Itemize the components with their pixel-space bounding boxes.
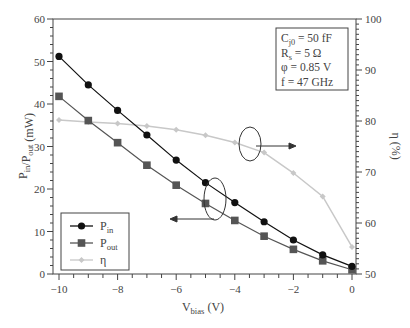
circle-marker: [231, 199, 238, 206]
eta-ellipse: [239, 127, 261, 161]
y2-tick-label: 80: [365, 115, 377, 127]
y2-tick-label: 70: [365, 166, 377, 178]
square-marker: [55, 93, 63, 101]
circle-marker: [85, 81, 92, 88]
square-marker: [78, 239, 86, 247]
diamond-marker: [56, 117, 62, 123]
parameter-line: f = 47 GHz: [281, 76, 333, 88]
parameter-box: Cj0 = 50 fFRs = 5 Ωφ = 0.85 Vf = 47 GHz: [276, 28, 348, 90]
y-tick-label: 10: [34, 226, 46, 238]
square-marker: [202, 200, 210, 208]
right-arrow-head: [289, 143, 296, 149]
x-tick-label: −2: [288, 283, 300, 295]
x-axis-label: Vbias (V): [182, 300, 224, 316]
y-tick-label: 40: [34, 98, 46, 110]
square-marker: [231, 217, 239, 225]
y2-tick-label: 50: [365, 268, 377, 280]
circle-marker: [114, 107, 121, 114]
diamond-marker: [173, 127, 179, 133]
diamond-marker: [115, 121, 121, 127]
x-tick-label: −8: [112, 283, 124, 295]
y2-tick-label: 60: [365, 217, 377, 229]
y2-axis-label: η (%): [389, 132, 403, 159]
legend: PinPoutη: [61, 213, 129, 270]
y2-tick-label: 90: [365, 64, 377, 76]
y-tick-label: 0: [40, 268, 46, 280]
circle-marker: [348, 263, 355, 270]
y-tick-label: 20: [34, 183, 46, 195]
square-marker: [290, 246, 298, 254]
square-marker: [85, 117, 93, 125]
circle-marker: [55, 53, 62, 60]
circle-marker: [290, 236, 297, 243]
diamond-marker: [203, 132, 209, 138]
x-tick-label: −4: [229, 283, 241, 295]
x-tick-label: 0: [349, 283, 355, 295]
diamond-marker: [349, 244, 355, 250]
diamond-marker: [232, 139, 238, 145]
circle-marker: [173, 157, 180, 164]
circle-marker: [261, 218, 268, 225]
x-tick-label: −6: [170, 283, 182, 295]
square-marker: [260, 232, 268, 240]
circle-marker: [78, 222, 85, 229]
circle-marker: [143, 131, 150, 138]
y-axis-label: Pin/Pout (mW): [16, 113, 36, 179]
y2-tick-label: 100: [365, 13, 382, 25]
square-marker: [143, 161, 151, 169]
chart: −10−8−6−4−2001020304050605060708090100 C…: [0, 0, 410, 328]
power-ellipse: [204, 178, 226, 220]
circle-marker: [319, 251, 326, 258]
x-tick-label: −10: [50, 283, 68, 295]
y-tick-label: 60: [34, 13, 46, 25]
square-marker: [114, 139, 122, 147]
parameter-line: φ = 0.85 V: [281, 61, 332, 74]
legend-label: η: [100, 253, 106, 267]
square-marker: [172, 181, 180, 189]
left-arrow-head: [170, 216, 177, 222]
y-tick-label: 50: [34, 56, 46, 68]
diamond-marker: [144, 123, 150, 129]
